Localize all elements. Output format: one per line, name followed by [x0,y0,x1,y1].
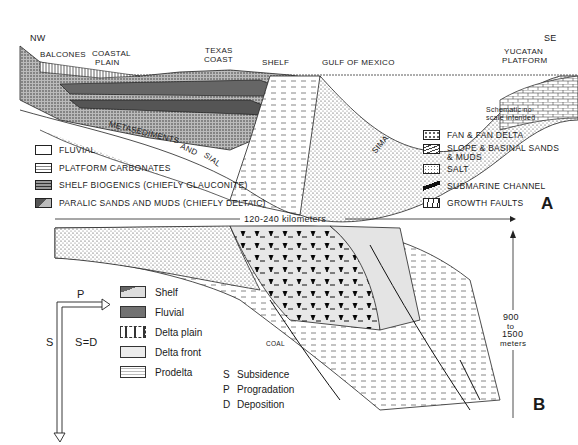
label-plain: PLAIN [95,58,120,67]
label-shelf: SHELF [262,58,289,67]
delta-front-swatch [120,346,146,358]
legend-item-fluvial-b: Fluvial [120,306,184,318]
salt-swatch [423,164,440,174]
label-coast: COAST [204,55,233,64]
orientation-nw: NW [30,34,46,43]
note-scale: scale intended [486,113,535,122]
fan-delta-swatch [423,130,440,140]
legend-item-slope-basinal: SLOPE & BASINAL SANDS& MUDS [423,144,559,162]
legend-item-platform-carbonates: PLATFORM CARBONATES [35,163,171,173]
thickness-meters: meters [500,339,526,348]
orientation-se: SE [544,34,557,43]
label-coastal: COASTAL [92,49,131,58]
width-scale-label: 120-240 kilometers [244,215,326,224]
fluvial-swatch [35,145,52,155]
thickness-1500: 1500 [502,330,523,339]
legend-item-prodelta: Prodelta [120,366,192,378]
panel-label-b: B [533,395,545,415]
paralic-sands-swatch [35,198,52,208]
legend-item-salt: SALT [423,164,469,174]
legend-item-paralic-sands: PARALIC SANDS AND MUDS (CHIEFLY DELTAIC) [35,198,266,208]
shelf-biogenics-swatch [35,180,52,190]
delta-plain-swatch [120,326,146,338]
axis-p-label: P [77,290,85,299]
legend-item-delta-plain: Delta plain [120,326,202,338]
panel-label-a: A [541,194,553,214]
legend-item-shelf-biogenics: SHELF BIOGENICS (CHIEFLY GLAUCONITE) [35,180,248,190]
platform-carbonates-swatch [35,163,52,173]
axis-sd-label: S=D [75,338,98,347]
label-balcones: BALCONES [40,50,86,59]
legend-item-growth-faults: GROWTH FAULTS [423,198,523,208]
label-yucatan: YUCATAN [504,47,543,56]
legend-item-fan-delta: FAN & FAN DELTA [423,130,523,140]
prodelta-swatch [120,366,146,378]
key-subsidence: S Subsidence [223,369,289,380]
label-platform: PLATFORM [502,56,547,65]
slope-basinal-swatch [423,144,440,154]
legend-item-shelf: Shelf [120,286,178,298]
thickness-900: 900 [503,313,519,322]
legend-item-delta-front: Delta front [120,346,201,358]
fluvial-b-swatch [120,306,146,318]
axis-s-label: S [46,338,54,347]
shelf-swatch [120,286,146,298]
submarine-channel-swatch [423,181,440,191]
label-coal: COAL [266,339,285,348]
key-deposition: D Deposition [223,399,284,410]
label-gulf-of-mexico: GULF OF MEXICO [322,58,395,67]
legend-item-submarine-channel: SUBMARINE CHANNEL [423,181,546,191]
label-texas: TEXAS [205,46,233,55]
key-progradation: P Progradation [223,384,294,395]
legend-item-fluvial: FLUVIAL [35,145,96,155]
growth-faults-swatch [423,198,440,208]
